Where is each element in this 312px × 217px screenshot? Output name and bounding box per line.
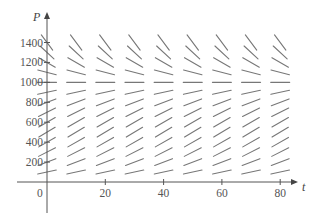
slope-segment [67,170,86,174]
slope-segment [214,137,230,146]
slope-segment [214,117,230,126]
p-tick-label: 1200 [20,56,43,68]
p-tick-label: 1400 [20,37,43,49]
slope-segment [213,108,230,117]
slope-segment [155,137,171,146]
t-tick-label: 40 [158,187,170,199]
slope-segment [70,35,81,50]
slope-segment [272,127,288,137]
slope-segment [125,90,144,94]
t-tick-label: 80 [274,187,286,199]
slope-segment [155,99,173,106]
slope-segment [275,35,286,50]
slope-segment [213,70,231,75]
slope-segment [273,46,287,59]
slope-segment [242,70,260,75]
slope-segment [154,90,173,94]
slope-segment [271,170,290,174]
slope-segment [184,159,202,166]
slope-segment [68,137,84,146]
slope-segment [242,170,261,174]
slope-segment [272,137,288,146]
slope-segment [96,159,114,166]
slope-segment [243,117,259,126]
direction-field-plot: 20406080 200400600800100012001400 t P 0 [0,0,312,217]
slope-segment [213,99,231,106]
slope-segment [97,127,113,137]
p-tick-label: 400 [26,136,44,148]
slope-segment [184,108,201,117]
slope-segment [185,117,201,126]
slope-segment [126,127,142,137]
slope-segment [155,117,171,126]
slope-segment [155,159,173,166]
slope-segment [244,46,258,59]
slope-segment [242,90,261,94]
slope-segment [155,148,172,157]
slope-segment [214,127,230,137]
slope-segment [98,46,112,59]
slope-segment [125,170,144,174]
slope-segments [38,35,290,174]
slope-segment [185,127,201,137]
slope-segment [126,117,142,126]
p-tick-label: 600 [26,116,44,128]
slope-segment [129,35,140,50]
slope-segment [96,170,115,174]
slope-segment [272,108,289,117]
slope-segment [243,108,260,117]
slope-segment [272,148,289,157]
slope-segment [97,58,113,67]
slope-segment [69,46,83,59]
slope-segment [155,127,171,137]
slope-segment [126,99,144,106]
slope-segment [96,70,114,75]
slope-segment [126,148,143,157]
slope-segment [214,58,230,67]
slope-segment [271,90,290,94]
slope-segment [242,99,260,106]
slope-segment [186,46,200,59]
slope-segment [185,58,201,67]
slope-segment [184,148,201,157]
slope-segment [243,137,259,146]
slope-segment [272,117,288,126]
p-tick-label: 1000 [20,76,43,88]
slope-segment [128,46,142,59]
slope-segment [187,35,198,50]
slope-segment [67,90,86,94]
slope-segment [184,70,202,75]
origin-label: 0 [37,187,43,199]
slope-segment [157,46,171,59]
slope-segment [97,148,114,157]
slope-segment [184,99,202,106]
p-tick-label: 800 [26,96,44,108]
p-axis-arrow-icon [44,12,50,19]
slope-segment [183,170,202,174]
p-axis-ticks: 200400600800100012001400 [20,37,50,169]
slope-segment [68,58,84,67]
slope-segment [243,148,260,157]
t-tick-label: 20 [100,187,112,199]
t-axis-label: t [302,180,306,194]
slope-segment [126,159,144,166]
slope-segment [67,99,85,106]
slope-segment [183,90,202,94]
slope-segment [126,108,143,117]
slope-segment [155,108,172,117]
slope-segment [158,35,169,50]
slope-segment [213,159,231,166]
slope-segment [125,70,143,75]
slope-segment [243,127,259,137]
slope-segment [213,90,232,94]
slope-segment [215,46,229,59]
slope-segment [67,159,85,166]
p-tick-label: 200 [26,156,44,168]
slope-segment [97,108,114,117]
slope-segment [271,70,289,75]
slope-segment [97,137,113,146]
slope-segment [68,127,84,137]
slope-segment [96,99,114,106]
slope-segment [100,35,111,50]
t-tick-label: 60 [216,187,228,199]
